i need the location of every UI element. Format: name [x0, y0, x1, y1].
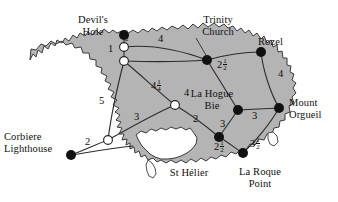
- frac-den: 2: [256, 144, 261, 151]
- edge-corbiere-coast: [71, 146, 133, 155]
- frac-whole: 2: [217, 60, 222, 71]
- edge-label-junction-north-junction-upper: 1: [108, 44, 113, 55]
- edge-label-junction-upper-southwest: 5: [99, 96, 104, 107]
- edge-label-la-roque-mount-orgueil: 312: [250, 137, 260, 152]
- edge-label-devils-hole-junction-north: 12: [124, 29, 129, 44]
- label-la-roque-point: La Roque Point: [230, 166, 290, 189]
- node-junction-upper[interactable]: [120, 57, 129, 66]
- label-devils-hole: Devil's Hole: [62, 14, 124, 37]
- edge-label-center-st-helier: 2: [193, 114, 198, 125]
- frac-den: 2: [220, 147, 225, 154]
- edge-label-rozel-mount-orgueil: 4: [278, 69, 283, 80]
- frac-whole: 4: [151, 81, 156, 92]
- frac-whole: 3: [250, 139, 255, 150]
- node-mount-orgueil[interactable]: [274, 103, 284, 113]
- label-la-hogue-bie: La Hogue Bie: [186, 88, 238, 111]
- label-rozel: Rozel: [258, 36, 300, 48]
- label-mount-orgueil: Mount Orgueil: [289, 97, 337, 120]
- node-la-roque-point[interactable]: [238, 148, 248, 158]
- label-trinity-church: Trinity Church: [186, 14, 250, 37]
- edge-label-junction-north-trinity: 4: [158, 34, 163, 45]
- frac-den: 2: [223, 65, 228, 72]
- edge-label-center-southwest: 3: [134, 112, 139, 123]
- frac-den: 2: [125, 36, 130, 43]
- edge-label-la-hogue-bie-st-helier: 3: [220, 119, 225, 130]
- node-junction-north[interactable]: [120, 43, 129, 52]
- edge-label-junction-upper-trinity: 4: [184, 88, 189, 99]
- coast-notch-southeast: [268, 132, 278, 146]
- edge-label-st-helier-la-roque: 212: [214, 140, 224, 155]
- frac-whole: 2: [214, 142, 219, 153]
- edge-label-southwest-corbiere: 2: [85, 137, 90, 148]
- edge-label-trinity-rozel: 212: [217, 58, 227, 73]
- frac-den: 4: [157, 86, 162, 93]
- label-st-helier: St Hélier: [163, 167, 215, 179]
- node-junction-center[interactable]: [171, 101, 180, 110]
- label-corbiere-lighthouse: Corbiere Lighthouse: [4, 131, 74, 154]
- map-diagram: Devil's Hole Trinity Church Rozel Mount …: [0, 0, 338, 202]
- node-junction-southwest[interactable]: [104, 136, 113, 145]
- node-rozel[interactable]: [256, 47, 266, 57]
- edge-label-la-hogue-bie-mount-orgueil: 3: [252, 111, 257, 122]
- edge-label-junction-upper-center: 414: [151, 79, 161, 94]
- coast-notch-southwest: [146, 160, 156, 178]
